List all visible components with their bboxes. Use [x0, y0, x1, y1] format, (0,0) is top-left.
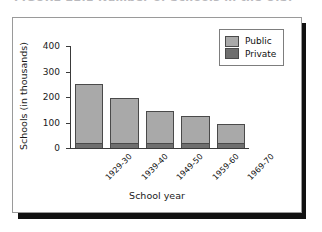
bar-stack [217, 124, 245, 148]
y-axis-tick-label: 400 [43, 41, 60, 51]
y-axis-tick: 100 [66, 123, 70, 124]
bar-stack [75, 84, 103, 148]
bar-stack [146, 111, 174, 148]
x-axis-tick-label: 1959-60 [211, 152, 241, 182]
y-axis-title: Schools (in thousands) [18, 42, 29, 150]
bar-segment-private [181, 143, 209, 148]
x-axis-title: School year [13, 190, 301, 201]
y-axis-tick-label: 100 [43, 118, 60, 128]
bar-segment-public [146, 111, 174, 143]
y-axis-tick: 400 [66, 46, 70, 47]
x-axis-line [70, 148, 249, 149]
legend-item-private: Private [225, 48, 276, 59]
y-axis-tick: 300 [66, 72, 70, 73]
bar-segment-private [75, 143, 103, 148]
y-axis-tick-label: 0 [54, 143, 60, 153]
y-axis-tick: 0 [66, 148, 70, 149]
figure-panel: Schools (in thousands) School year 01002… [12, 17, 302, 213]
bar-segment-private [217, 143, 245, 148]
legend-swatch-public-icon [225, 36, 239, 47]
y-axis-tick-label: 300 [43, 67, 60, 77]
legend-item-public: Public [225, 36, 276, 47]
x-axis-tick-label: 1929-30 [104, 152, 134, 182]
legend-swatch-private-icon [225, 48, 239, 59]
figure-caption-strip: FIGURE 22.1 Number of Schools in the U.S… [0, 0, 322, 9]
x-axis-tick-label: 1939-40 [139, 152, 169, 182]
bar-segment-public [217, 124, 245, 144]
bar-segment-public [75, 84, 103, 143]
bar-segment-public [181, 116, 209, 143]
y-axis-tick: 200 [66, 97, 70, 98]
bar-segment-private [110, 143, 138, 148]
x-axis-tick-label: 1949-50 [175, 152, 205, 182]
legend-label-public: Public [245, 36, 272, 46]
y-axis-tick-label: 200 [43, 92, 60, 102]
bar-stack [110, 98, 138, 148]
x-axis-tick-label: 1969-70 [246, 152, 276, 182]
chart-legend: Public Private [219, 29, 284, 66]
figure-caption-text: FIGURE 22.1 Number of Schools in the U.S… [14, 0, 292, 4]
bar-segment-private [146, 143, 174, 148]
legend-label-private: Private [245, 49, 276, 59]
bar-segment-public [110, 98, 138, 143]
bar-stack [181, 116, 209, 148]
